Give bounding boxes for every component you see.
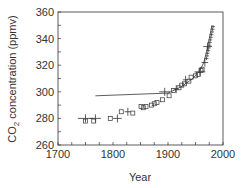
y-tick-label: 260 (36, 139, 54, 151)
data-series (78, 25, 215, 123)
data-point-square (150, 103, 154, 107)
x-tick-label: 1900 (156, 148, 180, 160)
data-point-square (161, 98, 165, 102)
data-point-square (108, 116, 112, 120)
tick-labels: 1700180019002000260280300320340360 (36, 6, 236, 160)
data-point-square (131, 111, 135, 115)
series-square (84, 67, 205, 123)
y-tick-label: 300 (36, 86, 54, 98)
y-tick-label: 340 (36, 33, 54, 45)
data-point-square (167, 94, 171, 98)
plot-border (58, 12, 223, 145)
series-line (95, 25, 212, 96)
co2-chart: 1700180019002000260280300320340360 Year … (0, 0, 249, 188)
data-point-square (144, 104, 148, 108)
plot-frame (58, 12, 223, 145)
data-point-square (155, 100, 159, 104)
data-point-square (119, 110, 123, 114)
data-point-square (152, 102, 156, 106)
y-tick-label: 320 (36, 59, 54, 71)
y-axis-label: CO2 concentration (ppmv) (6, 15, 21, 142)
x-tick-label: 2000 (211, 148, 235, 160)
y-tick-label: 360 (36, 6, 54, 18)
x-axis-label: Year (129, 171, 152, 183)
axis-ticks (58, 12, 223, 145)
y-tick-label: 280 (36, 112, 54, 124)
x-tick-label: 1800 (101, 148, 125, 160)
series-cross (78, 43, 212, 123)
